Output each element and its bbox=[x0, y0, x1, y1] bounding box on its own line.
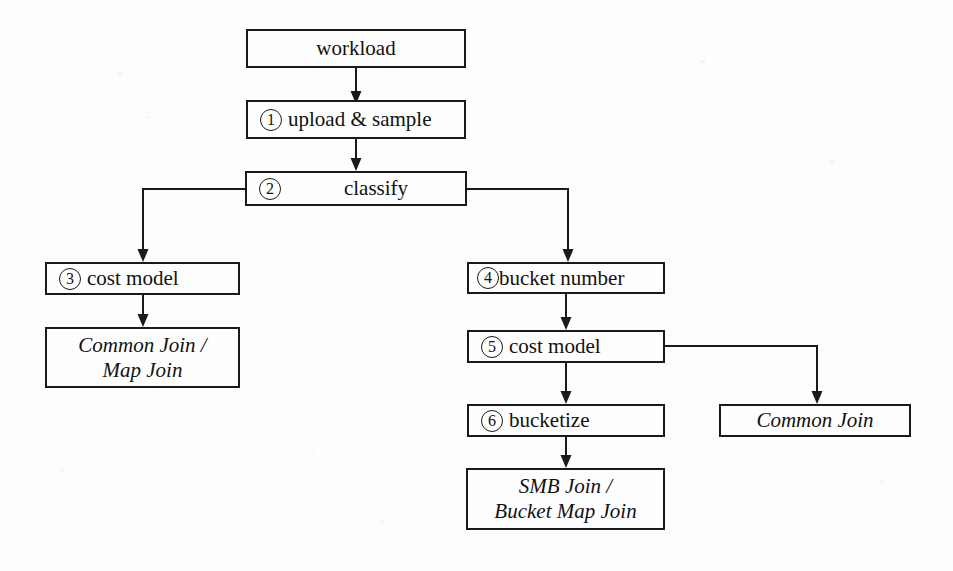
node-smb-bucket-map-join-label: SMB Join / Bucket Map Join bbox=[494, 474, 636, 524]
node-bucket-number[interactable]: 4 bucket number bbox=[467, 262, 665, 294]
node-common-join-map-join-label: Common Join / Map Join bbox=[78, 333, 206, 383]
edge-classify-to-bucket-number bbox=[467, 189, 574, 262]
scan-speck bbox=[310, 450, 315, 452]
node-upload-sample[interactable]: 1 upload & sample bbox=[246, 100, 466, 139]
node-classify[interactable]: 2 classify bbox=[245, 171, 467, 206]
node-common-join-label: Common Join bbox=[756, 408, 873, 433]
scan-speck bbox=[60, 470, 64, 472]
edge-cost-model-5-to-bucketize bbox=[561, 363, 572, 404]
step-number-1-badge: 1 bbox=[260, 109, 282, 131]
edge-bucketize-to-smb bbox=[561, 437, 572, 468]
step-number-5-badge: 5 bbox=[481, 336, 503, 358]
node-smb-bucket-map-join[interactable]: SMB Join / Bucket Map Join bbox=[466, 468, 665, 530]
node-workload[interactable]: workload bbox=[246, 29, 466, 68]
node-cost-model-3[interactable]: 3 cost model bbox=[45, 262, 240, 295]
node-bucketize-label: bucketize bbox=[509, 408, 589, 433]
edge-cost-model-3-to-common-map bbox=[138, 295, 149, 327]
diagram-canvas: workload 1 upload & sample 2 classify 3 … bbox=[0, 0, 953, 571]
node-workload-label: workload bbox=[316, 36, 395, 61]
step-number-2-badge: 2 bbox=[259, 178, 281, 200]
step-number-3-badge: 3 bbox=[59, 268, 81, 290]
edge-bucket-number-to-cost-model-5 bbox=[561, 294, 572, 330]
step-number-4-badge: 4 bbox=[477, 267, 499, 289]
node-cost-model-5-label: cost model bbox=[509, 334, 601, 359]
step-number-6-badge: 6 bbox=[481, 410, 503, 432]
scan-speck bbox=[118, 72, 123, 75]
edge-cost-model-5-to-common-join bbox=[665, 346, 823, 404]
edge-classify-to-cost-model-3 bbox=[138, 189, 246, 262]
node-classify-label: classify bbox=[287, 176, 465, 201]
node-bucket-number-label: bucket number bbox=[499, 266, 624, 291]
scan-speck bbox=[830, 160, 835, 163]
node-upload-sample-label: upload & sample bbox=[288, 107, 431, 132]
node-common-join-map-join[interactable]: Common Join / Map Join bbox=[45, 327, 240, 388]
scan-speck bbox=[146, 116, 150, 118]
edge-upload-to-classify bbox=[351, 139, 362, 171]
scan-speck bbox=[380, 520, 384, 523]
node-cost-model-5[interactable]: 5 cost model bbox=[467, 330, 665, 363]
node-common-join[interactable]: Common Join bbox=[719, 404, 911, 437]
edge-workload-to-upload bbox=[351, 68, 362, 104]
node-bucketize[interactable]: 6 bucketize bbox=[467, 404, 665, 437]
scan-speck bbox=[700, 60, 706, 63]
scan-speck bbox=[880, 480, 885, 483]
node-cost-model-3-label: cost model bbox=[87, 266, 179, 291]
